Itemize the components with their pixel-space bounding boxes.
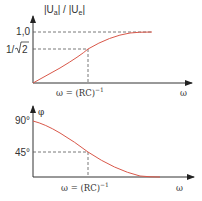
svg-text:2: 2 (22, 44, 28, 55)
amplitude-x-label: ω (180, 88, 187, 98)
bode-diagram: |Ua| / |Ue| 1,0 1/ 2 ω = (RC)−1 ω φ 90° … (0, 0, 202, 201)
amplitude-tick-inv-sqrt2: 1/ 2 (6, 42, 29, 55)
amplitude-cutoff-label: ω = (RC)−1 (56, 86, 104, 98)
amplitude-curve (33, 32, 152, 83)
phase-chart: φ 90° 45° ω = (RC)−1 ω (15, 106, 194, 193)
amplitude-chart: |Ua| / |Ue| 1,0 1/ 2 ω = (RC)−1 ω (6, 4, 192, 98)
phase-cutoff-label: ω = (RC)−1 (61, 181, 109, 193)
phase-tick-90: 90° (15, 115, 30, 126)
phase-y-label: φ (38, 107, 44, 117)
phase-tick-45: 45° (15, 147, 30, 158)
phase-x-label: ω (176, 183, 183, 193)
amplitude-tick-1: 1,0 (16, 26, 30, 37)
svg-text:1/: 1/ (6, 44, 15, 55)
amplitude-y-label: |Ua| / |Ue| (44, 4, 85, 16)
phase-curve (33, 121, 160, 177)
